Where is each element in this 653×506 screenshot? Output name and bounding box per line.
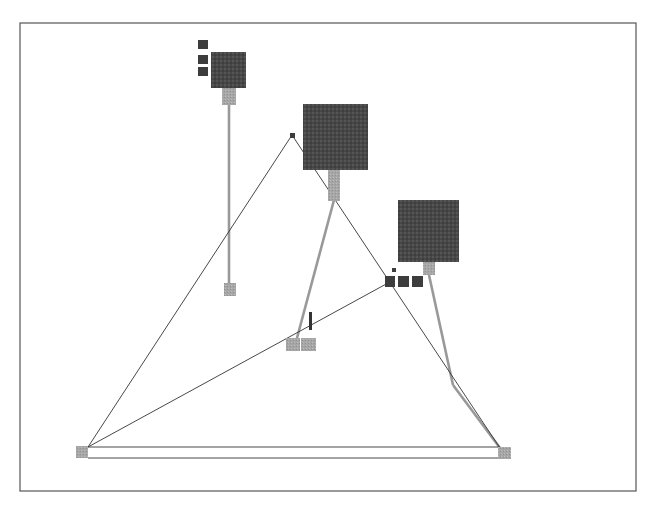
gray-edge	[297, 200, 334, 338]
anchor-node[interactable]	[301, 338, 316, 351]
large-node[interactable]	[303, 104, 368, 170]
diagram-frame	[20, 23, 636, 491]
small-node[interactable]	[398, 276, 409, 287]
node-connector	[423, 262, 435, 275]
node-connector	[328, 170, 340, 201]
dark-edge	[88, 283, 388, 447]
small-node[interactable]	[198, 55, 208, 64]
anchor-node[interactable]	[286, 338, 300, 351]
gray-edge	[453, 385, 500, 448]
large-node[interactable]	[211, 52, 246, 88]
small-node[interactable]	[198, 40, 208, 49]
small-node[interactable]	[198, 67, 208, 76]
anchor-node[interactable]	[76, 446, 88, 458]
small-node[interactable]	[290, 133, 295, 138]
dark-edge	[292, 135, 500, 448]
anchor-node[interactable]	[224, 283, 236, 296]
small-node[interactable]	[412, 276, 423, 287]
anchor-node[interactable]	[498, 447, 511, 459]
gray-edge	[429, 275, 453, 385]
diagram-nodes	[76, 40, 511, 459]
small-node[interactable]	[385, 276, 395, 287]
figure-marker-icon	[309, 312, 312, 330]
dark-edges	[88, 135, 500, 458]
large-node[interactable]	[398, 200, 459, 262]
dark-edge	[88, 135, 292, 447]
network-diagram	[0, 0, 653, 506]
small-node[interactable]	[392, 268, 396, 272]
node-connector	[222, 88, 236, 105]
